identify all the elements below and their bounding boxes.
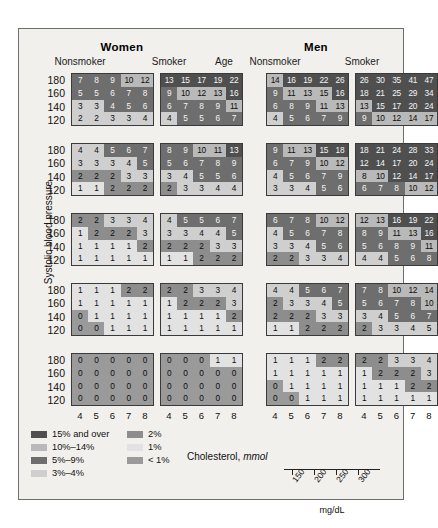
risk-cell: 25 [388,87,404,100]
risk-cell: 1 [316,367,332,380]
risk-cell: 4 [193,227,209,240]
risk-cell: 14 [267,74,283,87]
risk-cell: 5 [316,182,332,195]
risk-cell: 2 [299,310,315,323]
risk-block: 11122111110111100111 [266,353,349,406]
risk-cell: 2 [161,182,177,195]
risk-cell: 4 [372,252,388,265]
risk-cell: 0 [104,354,120,367]
cholesterol-tick-label: 4 [163,410,175,421]
risk-cell: 1 [177,252,193,265]
cholesterol-tick-label: 6 [107,410,119,421]
risk-cell: 4 [267,284,283,297]
risk-cell: 1 [104,240,120,253]
legend-item: 2% [127,429,161,439]
risk-cell: 6 [267,157,283,170]
risk-cell: 3 [332,310,348,323]
risk-cell: 4 [121,157,137,170]
risk-cell: 4 [356,252,372,265]
risk-cell: 14 [421,284,437,297]
cholesterol-tick-label: 8 [423,410,435,421]
cholesterol-tick-label: 7 [212,410,224,421]
cholesterol-tick-label: 5 [179,410,191,421]
risk-cell: 11 [283,144,299,157]
risk-cell: 7 [316,227,332,240]
risk-cell: 3 [356,310,372,323]
risk-cell: 2 [88,112,104,125]
risk-cell: 6 [299,112,315,125]
risk-cell: 1 [137,310,153,323]
bp-row-label: 120 [39,114,65,126]
risk-cell: 8 [356,227,372,240]
risk-cell: 3 [88,157,104,170]
risk-cell: 2 [193,252,209,265]
risk-cell: 21 [372,87,388,100]
risk-cell: 8 [388,182,404,195]
risk-cell: 2 [316,354,332,367]
cholesterol-ticks: 45678 [269,410,346,421]
cholesterol-tick-label: 4 [269,410,281,421]
risk-cell: 5 [356,240,372,253]
risk-cell: 5 [299,284,315,297]
risk-block: 11122111110111100111 [71,283,154,336]
risk-cell: 4 [210,182,226,195]
risk-cell: 3 [104,214,120,227]
risk-cell: 1 [210,310,226,323]
risk-cell: 17 [421,112,437,125]
risk-cell: 16 [421,227,437,240]
risk-cell: 7 [193,157,209,170]
risk-cell: 1 [88,252,104,265]
risk-cell: 3 [88,100,104,113]
bp-row-label: 140 [39,171,65,183]
risk-cell: 1 [372,392,388,405]
risk-cell: 2 [405,367,421,380]
risk-cell: 6 [210,214,226,227]
risk-cell: 3 [161,170,177,183]
risk-cell: 3 [72,157,88,170]
risk-cell: 4 [104,100,120,113]
risk-cell: 1 [356,380,372,393]
risk-cell: 11 [421,240,437,253]
risk-cell: 0 [177,392,193,405]
risk-cell: 7 [356,284,372,297]
risk-cell: 5 [283,170,299,183]
risk-block: 263035414718212529341315172024910121417 [355,73,438,126]
mgdl-axis-caption: mg/dL [284,505,380,515]
risk-cell: 0 [72,310,88,323]
risk-cell: 35 [388,74,404,87]
risk-cell: 0 [193,367,209,380]
risk-cell: 14 [405,112,421,125]
risk-cell: 0 [121,354,137,367]
risk-chart-card: Women Men Nonsmoker Smoker Age Nonsmoker… [18,28,404,500]
risk-cell: 7 [332,284,348,297]
cholesterol-ticks: 45678 [74,410,151,421]
risk-cell: 1 [121,240,137,253]
risk-cell: 0 [72,354,88,367]
risk-cell: 2 [405,380,421,393]
risk-cell: 2 [177,297,193,310]
cholesterol-tick-label: 5 [374,410,386,421]
risk-cell: 0 [161,380,177,393]
risk-cell: 3 [372,322,388,335]
risk-cell: 1 [161,297,177,310]
cholesterol-tick-label: 4 [74,410,86,421]
risk-cell: 4 [405,322,421,335]
risk-cell: 4 [421,354,437,367]
risk-cell: 3 [316,310,332,323]
risk-cell: 8 [193,100,209,113]
risk-cell: 4 [299,240,315,253]
risk-block: 00011000000000000000 [160,353,243,406]
risk-cell: 5 [283,227,299,240]
risk-cell: 19 [405,214,421,227]
risk-cell: 2 [299,322,315,335]
risk-cell: 0 [226,380,242,393]
risk-cell: 8 [356,170,372,183]
risk-cell: 28 [405,144,421,157]
risk-cell: 3 [193,284,209,297]
risk-cell: 3 [388,322,404,335]
risk-cell: 2 [226,252,242,265]
risk-cell: 13 [372,214,388,227]
risk-cell: 1 [372,380,388,393]
risk-cell: 8 [421,252,437,265]
risk-cell: 4 [226,182,242,195]
